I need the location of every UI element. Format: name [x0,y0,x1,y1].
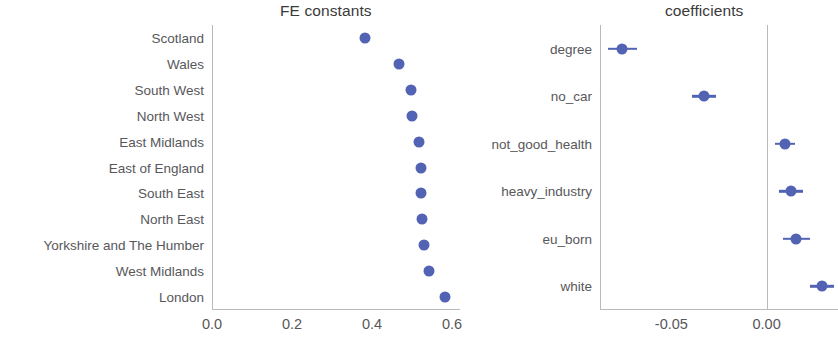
category-label: North West [137,108,212,123]
x-tick-label: 0.2 [282,316,302,332]
data-point-marker [440,292,451,303]
x-tick-label: 0.0 [202,316,222,332]
data-point-marker [417,214,428,225]
category-label: white [560,279,600,294]
x-axis-ticks-right: -0.050.00 [460,316,838,338]
category-label: no_car [551,89,600,104]
data-point-marker [406,84,417,95]
category-label: East of England [109,160,212,175]
x-axis-ticks-left: 0.00.20.40.6 [0,316,460,338]
category-label: South East [138,186,212,201]
data-point-marker [394,58,405,69]
data-point-marker [359,32,370,43]
x-tick-label: -0.05 [655,316,688,332]
category-label: Wales [167,56,212,71]
data-point-marker [816,281,827,292]
category-label: Scotland [151,30,212,45]
category-label: heavy_industry [501,184,600,199]
data-point-marker [786,186,797,197]
data-point-marker [617,43,628,54]
data-point-marker [414,136,425,147]
category-label: degree [550,41,600,56]
panel-title-coefficients: coefficients [665,2,743,20]
panel-fe-constants: FE constants ScotlandWalesSouth WestNort… [0,0,460,340]
category-label: North East [140,212,212,227]
category-label: not_good_health [491,136,600,151]
panel-title-fe-constants: FE constants [280,2,372,20]
figure-dotplot-panels: FE constants ScotlandWalesSouth WestNort… [0,0,838,340]
data-point-marker [419,240,430,251]
zero-reference-line [767,25,768,310]
data-point-marker [699,91,710,102]
category-label: Yorkshire and The Humber [43,238,212,253]
data-point-marker [415,162,426,173]
plot-area-right [600,25,838,310]
category-axis-left: ScotlandWalesSouth WestNorth WestEast Mi… [0,0,212,340]
data-point-marker [415,188,426,199]
category-label: London [159,290,212,305]
category-label: eu_born [542,231,600,246]
data-point-marker [424,266,435,277]
category-label: South West [134,82,212,97]
category-label: East Midlands [119,134,212,149]
data-point-marker [780,138,791,149]
category-label: West Midlands [116,264,212,279]
data-point-marker [407,110,418,121]
x-tick-label: 0.00 [752,316,780,332]
category-axis-right: degreeno_carnot_good_healthheavy_industr… [460,0,600,340]
panel-coefficients: coefficients degreeno_carnot_good_health… [460,0,838,340]
x-tick-label: 0.4 [362,316,382,332]
data-point-marker [791,233,802,244]
